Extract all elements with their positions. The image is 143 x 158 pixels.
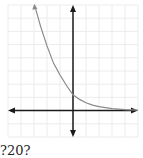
decay-curve xyxy=(35,8,138,111)
question-label: ?20? xyxy=(0,144,30,158)
axes xyxy=(8,4,138,137)
exponential-graph xyxy=(0,0,143,140)
